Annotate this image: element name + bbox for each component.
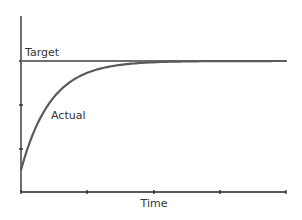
x-axis-label: Time: [140, 197, 168, 210]
chart: Target Actual Time: [0, 0, 302, 220]
actual-label: Actual: [51, 109, 85, 122]
target-label: Target: [24, 46, 60, 59]
